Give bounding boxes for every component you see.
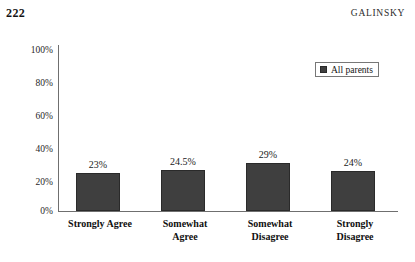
category-line: Disagree <box>309 231 401 244</box>
category-label-strongly-agree: Strongly Agree <box>54 218 146 231</box>
bar-somewhat-disagree <box>246 163 290 211</box>
legend-swatch-icon <box>320 66 327 73</box>
bar-somewhat-agree <box>161 170 205 211</box>
bar-strongly-agree <box>76 173 120 211</box>
x-axis-line <box>58 211 398 212</box>
y-tick-label-20: 20% <box>3 177 53 187</box>
running-title: GALINSKY <box>351 8 405 18</box>
category-line: Disagree <box>224 231 316 244</box>
bar-group-somewhat-agree: 24.5% <box>143 45 228 211</box>
bar-group-strongly-agree: 23% <box>58 45 143 211</box>
page-header: 222 GALINSKY <box>0 0 415 28</box>
page-number: 222 <box>6 6 25 21</box>
legend-label-all-parents: All parents <box>331 65 373 75</box>
category-label-somewhat-disagree: Somewhat Disagree <box>224 218 316 243</box>
bar-group-somewhat-disagree: 29% <box>228 45 313 211</box>
bar-value-strongly-disagree: 24% <box>313 157 393 168</box>
category-line: Agree <box>139 231 231 244</box>
category-line: Somewhat <box>224 218 316 231</box>
y-tick-label-40: 40% <box>3 144 53 154</box>
bar-value-somewhat-disagree: 29% <box>228 149 308 160</box>
category-label-strongly-disagree: Strongly Disagree <box>309 218 401 243</box>
bar-strongly-disagree <box>331 171 375 211</box>
bar-value-strongly-agree: 23% <box>58 159 138 170</box>
category-label-somewhat-agree: Somewhat Agree <box>139 218 231 243</box>
chart-legend: All parents <box>315 62 379 77</box>
category-line: Somewhat <box>139 218 231 231</box>
category-line: Strongly Agree <box>54 218 146 231</box>
category-line: Strongly <box>309 218 401 231</box>
y-tick-label-60: 60% <box>3 111 53 121</box>
bar-value-somewhat-agree: 24.5% <box>143 156 223 167</box>
y-tick-label-80: 80% <box>3 78 53 88</box>
y-tick-label-0: 0% <box>3 206 53 216</box>
bar-chart: 100% 80% 60% 40% 20% 0% 23% 24.5% 29% 24… <box>0 28 415 262</box>
y-tick-label-100: 100% <box>3 45 53 55</box>
